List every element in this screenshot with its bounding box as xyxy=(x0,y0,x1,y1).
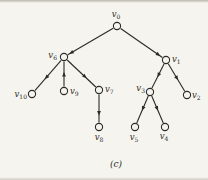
node-v3 xyxy=(146,88,153,95)
node-label-v0: v0 xyxy=(112,9,121,20)
edge-v6-v10 xyxy=(35,60,61,90)
node-label-v6: v6 xyxy=(48,50,57,61)
node-label-v2: v2 xyxy=(192,90,201,101)
edge-v0-v6 xyxy=(68,28,113,55)
node-v2 xyxy=(183,91,190,98)
node-v4 xyxy=(161,123,168,130)
node-v1 xyxy=(162,56,169,63)
node-label-v3: v3 xyxy=(136,83,145,94)
arrowhead-v0-v1 xyxy=(155,52,160,56)
arrowhead-v7-v8 xyxy=(97,111,101,116)
node-v8 xyxy=(95,123,102,130)
graph-canvas: v0v6v1v10v9v7v8v3v2v5v4 xyxy=(0,0,208,180)
node-v9 xyxy=(60,87,67,94)
arrowhead-v9-v6 xyxy=(62,72,66,77)
node-v10 xyxy=(28,90,35,97)
scan-edge-bottom xyxy=(0,177,208,180)
node-v0 xyxy=(113,22,120,29)
figure-caption: (c) xyxy=(100,159,132,169)
node-v5 xyxy=(131,123,138,130)
node-label-v10: v10 xyxy=(15,89,28,100)
node-label-v4: v4 xyxy=(160,131,169,142)
node-label-v5: v5 xyxy=(130,132,139,143)
figure-page: v0v6v1v10v9v7v8v3v2v5v4 (c) xyxy=(0,0,208,180)
arrowhead-v3-v5 xyxy=(142,106,146,111)
node-v6 xyxy=(60,53,67,60)
node-label-v9: v9 xyxy=(70,86,79,97)
node-v7 xyxy=(95,86,102,93)
node-label-v8: v8 xyxy=(95,132,104,143)
edge-v6-v7 xyxy=(67,60,96,87)
node-label-v1: v1 xyxy=(172,54,181,65)
arrowhead-v3-v4 xyxy=(155,106,159,111)
node-label-v7: v7 xyxy=(105,84,114,95)
edge-v0-v1 xyxy=(121,29,163,58)
